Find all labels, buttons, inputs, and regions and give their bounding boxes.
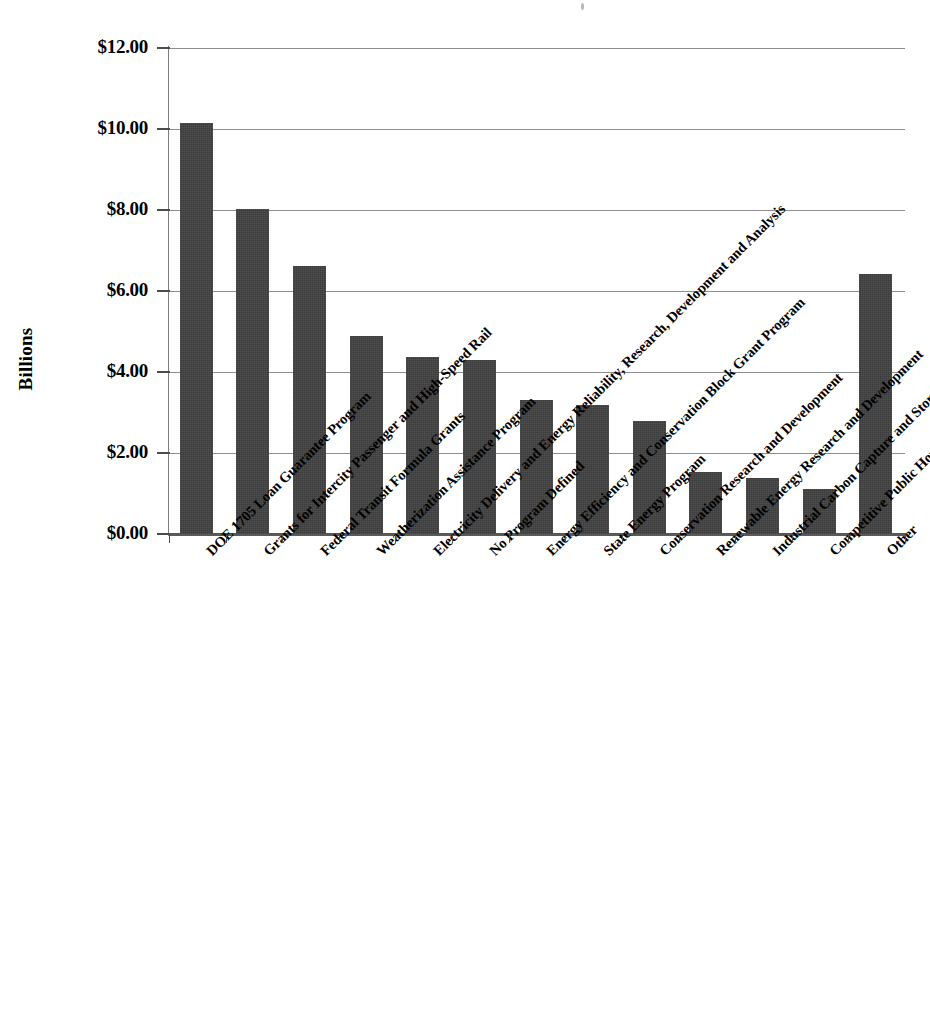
- x-axis-tick-mark: [565, 535, 566, 543]
- x-axis-category-label: No Program Defined: [487, 548, 497, 558]
- x-axis-category-label: Grants for Intercity Passenger and High-…: [261, 548, 271, 558]
- x-axis-category-labels: DOE 1705 Loan Guarantee ProgramGrants fo…: [0, 0, 930, 1018]
- y-axis-tick-mark: [157, 452, 170, 454]
- y-axis-tick-mark: [157, 47, 170, 49]
- x-axis-tick-mark: [509, 535, 510, 543]
- x-axis-category-label: Renewable Energy Research and Developmen…: [714, 548, 724, 558]
- x-axis-category-label: Electricity Delivery and Energy Reliabil…: [431, 548, 441, 558]
- bar-chart: Billions $0.00$2.00$4.00$6.00$8.00$10.00…: [0, 0, 930, 1018]
- x-axis-category-label: Competitive Public Housing Capital Fund …: [827, 548, 837, 558]
- x-axis-category-label: Federal Transit Formula Grants: [317, 548, 327, 558]
- x-axis-tick-mark: [339, 535, 340, 543]
- x-axis-tick-mark: [226, 535, 227, 543]
- y-axis-tick-mark: [157, 128, 170, 130]
- y-axis-tick-mark: [157, 290, 170, 292]
- x-axis-category-label: DOE 1705 Loan Guarantee Program: [204, 548, 214, 558]
- x-axis-category-label: Industrial Carbon Capture and Storage Ap…: [770, 548, 780, 558]
- x-axis-category-label: State Energy Program: [600, 548, 610, 558]
- x-axis-tick-mark: [452, 535, 453, 543]
- y-axis-tick-mark: [157, 209, 170, 211]
- x-axis-category-label: Weatherization Assistance Program: [374, 548, 384, 558]
- x-axis-tick-mark: [622, 535, 623, 543]
- x-axis-tick-mark: [848, 535, 849, 543]
- x-axis-category-label: Other: [884, 548, 894, 558]
- x-axis-tick-mark: [735, 535, 736, 543]
- x-axis-tick-mark: [679, 535, 680, 543]
- x-axis-tick-mark: [792, 535, 793, 543]
- x-axis-tick-mark: [395, 535, 396, 543]
- x-axis-tick-mark: [282, 535, 283, 543]
- y-axis-tick-mark: [157, 371, 170, 373]
- x-axis-tick-mark: [169, 535, 170, 543]
- x-axis-category-label: Conservation Research and Development: [657, 548, 667, 558]
- x-axis-category-label: Energy Efficiency and Conservation Block…: [544, 548, 554, 558]
- x-axis-tick-mark: [905, 535, 906, 543]
